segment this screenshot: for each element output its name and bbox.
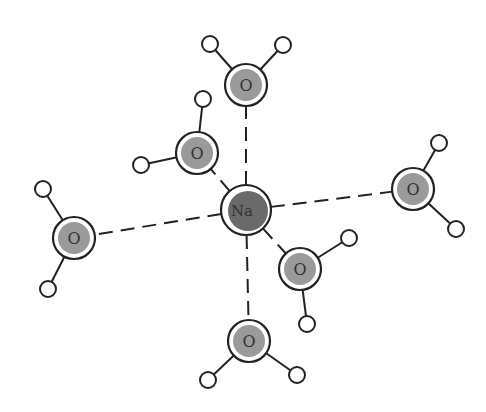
sodium-ion: Na [221, 185, 271, 235]
oxygen-label: O [67, 229, 80, 248]
hydrogen-atom [35, 181, 51, 197]
hydrogen-atom [431, 135, 447, 151]
ion-dipole-bond [263, 228, 286, 253]
hydrogen-atom [195, 91, 211, 107]
hydrogen-atom [275, 37, 291, 53]
ion-dipole-bond [247, 235, 249, 320]
hydrogen-atom [40, 281, 56, 297]
water-upper-left: O [176, 132, 218, 174]
ion-dipole-bond [271, 192, 392, 207]
hydrogen-atom [299, 316, 315, 332]
ion-dipole-bond [211, 169, 230, 191]
water-bottom: O [228, 320, 270, 362]
hydrogen-atom [200, 372, 216, 388]
oxygen-label: O [239, 76, 252, 95]
water-left: O [53, 217, 95, 259]
hydrogen-atom [341, 230, 357, 246]
oxygen-label: O [242, 332, 255, 351]
hydrogen-atom [289, 367, 305, 383]
ion-dipole-bond [95, 214, 222, 235]
hydrated-sodium-diagram: OOOOOO Na [0, 0, 486, 412]
water-top: O [225, 64, 267, 106]
water-lower-right: O [279, 248, 321, 290]
hydrogen-atom [202, 36, 218, 52]
hydrogen-atom [448, 221, 464, 237]
sodium-label: Na [231, 202, 253, 220]
water-right: O [392, 168, 434, 210]
oxygen-label: O [190, 144, 203, 163]
oxygen-label: O [293, 260, 306, 279]
oxygen-label: O [406, 180, 419, 199]
hydrogen-atom [133, 157, 149, 173]
